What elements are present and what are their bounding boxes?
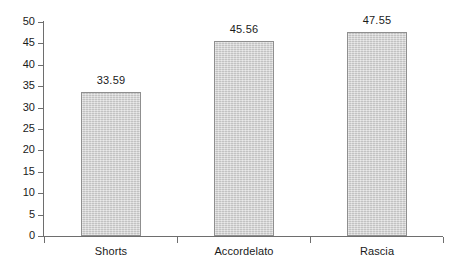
bar-value-label: 45.56 <box>204 24 284 35</box>
y-axis-tick-label: 35 <box>4 80 35 91</box>
y-axis-tick-label: 40 <box>4 59 35 70</box>
bar-value-label: 33.59 <box>71 75 151 86</box>
x-axis-tick <box>44 237 45 243</box>
category-label-rascia: Rascia <box>312 245 442 257</box>
y-axis-tick-label: 25 <box>4 123 35 134</box>
category-label-shorts: Shorts <box>46 245 176 257</box>
x-axis-line <box>43 236 443 237</box>
y-axis-tick-label: 0 <box>4 230 35 241</box>
bar-rascia <box>347 32 407 236</box>
y-axis-tick-label: 20 <box>4 144 35 155</box>
y-axis-tick-label: 30 <box>4 102 35 113</box>
bar-value-label: 47.55 <box>337 15 417 26</box>
plot-area <box>44 22 443 236</box>
y-axis-tick-label: 10 <box>4 187 35 198</box>
x-axis-tick <box>443 237 444 243</box>
y-axis-tick-label: 15 <box>4 166 35 177</box>
bar-accordelato <box>214 41 274 236</box>
y-axis-tick-label: 45 <box>4 37 35 48</box>
y-axis-tick-label: 5 <box>4 209 35 220</box>
bar-shorts <box>81 92 141 236</box>
y-axis-tick-label: 50 <box>4 16 35 27</box>
x-axis-tick <box>310 237 311 243</box>
bar-chart: 05101520253035404550 33.5945.5647.55 Sho… <box>0 0 464 262</box>
category-label-accordelato: Accordelato <box>179 245 309 257</box>
x-axis-tick <box>177 237 178 243</box>
